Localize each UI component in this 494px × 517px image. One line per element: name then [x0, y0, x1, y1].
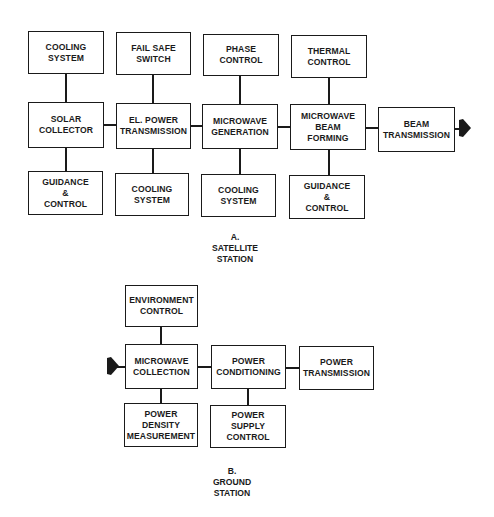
connector — [239, 75, 241, 104]
connector — [65, 73, 67, 103]
output-arrow-icon — [459, 119, 471, 137]
environment-control-block: ENVIRONMENT CONTROL — [125, 285, 198, 327]
connector — [160, 388, 162, 404]
connector — [328, 77, 330, 104]
connector — [103, 124, 116, 126]
connector — [247, 388, 249, 405]
guidance-control-block: GUIDANCE & CONTROL — [289, 175, 365, 219]
cooling-system-block: COOLING SYSTEM — [28, 31, 104, 74]
connector — [328, 150, 330, 175]
connector — [190, 125, 202, 127]
cooling-system-block: COOLING SYSTEM — [115, 173, 189, 216]
microwave-generation-block: MICROWAVE GENERATION — [202, 104, 278, 149]
fail-safe-switch-block: FAIL SAFE SWITCH — [116, 32, 191, 75]
microwave-collection-block: MICROWAVE COLLECTION — [125, 344, 198, 389]
beam-transmission-block: BEAM TRANSMISSION — [378, 107, 455, 152]
connector — [160, 327, 162, 345]
power-transmission-block: POWER TRANSMISSION — [299, 346, 374, 390]
cooling-system-block: COOLING SYSTEM — [201, 174, 276, 217]
el-power-transmission-block: EL. POWER TRANSMISSION — [116, 103, 191, 149]
thermal-control-block: THERMAL CONTROL — [291, 35, 367, 78]
guidance-control-block: GUIDANCE & CONTROL — [28, 171, 103, 215]
solar-collector-block: SOLAR COLLECTOR — [28, 102, 104, 148]
phase-control-block: PHASE CONTROL — [203, 34, 279, 76]
connector — [197, 366, 211, 368]
connector — [239, 148, 241, 174]
ground-station-caption: B. GROUND STATION — [202, 466, 262, 499]
connector — [365, 127, 378, 129]
connector — [285, 367, 299, 369]
connector — [152, 74, 154, 104]
power-supply-control-block: POWER SUPPLY CONTROL — [210, 405, 286, 448]
input-arrow-icon — [107, 357, 119, 375]
connector — [277, 126, 290, 128]
power-density-measurement-block: POWER DENSITY MEASUREMENT — [124, 403, 198, 447]
power-conditioning-block: POWER CONDITIONING — [211, 345, 286, 389]
satellite-station-caption: A. SATELLITE STATION — [205, 232, 265, 265]
connector — [65, 148, 67, 172]
microwave-beam-forming-block: MICROWAVE BEAM FORMING — [290, 104, 366, 150]
connector — [152, 148, 154, 173]
